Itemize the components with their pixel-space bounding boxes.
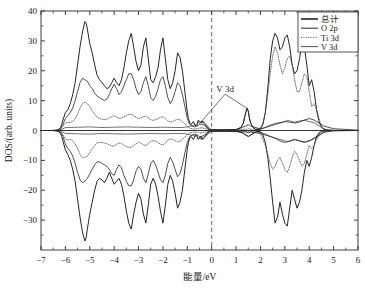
y-tick-label: 20 [28,66,38,76]
legend: 总计O 2pTi 3dV 3d [298,12,358,52]
y-tick-label: 0 [33,126,38,136]
y-tick-label: −10 [23,155,38,165]
x-tick-label: 0 [209,255,214,265]
x-tick-label: −7 [36,255,46,265]
x-tick-label: −2 [158,255,168,265]
legend-label: V 3d [321,42,338,52]
annotation-v3d-label: V 3d [216,84,234,94]
x-axis-title: 能量/eV [183,271,217,282]
x-tick-label: −6 [61,255,71,265]
y-tick-label: 40 [28,6,38,16]
x-tick-label: 5 [331,255,336,265]
x-tick-label: 3 [283,255,288,265]
x-tick-label: −1 [183,255,193,265]
dos-chart-figure: −7−6−5−4−3−2−10123456 −30−20−10010203040… [0,0,365,292]
y-tick-label: −20 [23,185,38,195]
x-tick-label: −4 [109,255,119,265]
x-tick-label: −5 [85,255,95,265]
x-tick-label: 2 [258,255,263,265]
x-tick-label: 1 [234,255,239,265]
x-tick-label: −3 [134,255,144,265]
y-tick-label: −30 [23,215,38,225]
y-axis-title: DOS/(arb. units) [4,99,15,162]
dos-plot-svg: −7−6−5−4−3−2−10123456 −30−20−10010203040… [0,0,365,292]
x-tick-label: 4 [307,255,312,265]
y-tick-label: 30 [28,36,38,46]
y-tick-label: 10 [28,96,38,106]
x-tick-label: 6 [356,255,361,265]
